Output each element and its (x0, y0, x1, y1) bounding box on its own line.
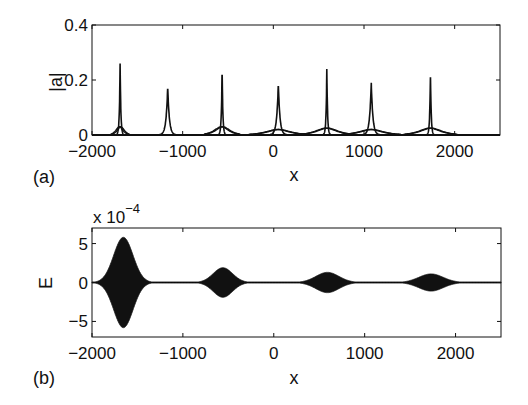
panel-b-multiplier: x 10−4 (93, 201, 140, 227)
x-tick-label: 1000 (346, 344, 384, 363)
panel-a-label: (a) (33, 167, 55, 187)
panel-b-label: (b) (33, 368, 55, 388)
panel-b-ylabel: E (36, 277, 56, 289)
base-hump-curve (405, 128, 457, 134)
y-tick-label: −5 (69, 312, 88, 331)
energy-envelope (92, 237, 501, 327)
panel-b-envelopes (92, 237, 501, 327)
panel-a-plot: −2000−100001000200000.20.4 |a| x (a) (33, 16, 500, 187)
multiplier-base: x 10 (93, 208, 125, 227)
peak-curve (92, 64, 500, 136)
x-tick-label: 1000 (345, 142, 383, 161)
y-tick-label: 0.2 (64, 71, 88, 90)
y-tick-label: 0 (79, 274, 88, 293)
panel-a-ylabel: |a| (46, 72, 66, 91)
x-tick-label: 0 (269, 344, 278, 363)
base-hump-curve (301, 128, 353, 134)
panel-a-peaks (92, 64, 500, 136)
panel-b-xlabel: x (290, 368, 299, 388)
x-tick-label: −1000 (159, 142, 207, 161)
x-tick-label: −2000 (68, 142, 116, 161)
x-tick-label: −1000 (159, 344, 207, 363)
panel-a-axes-frame (92, 25, 500, 135)
x-tick-label: 2000 (437, 344, 475, 363)
x-tick-label: 2000 (436, 142, 474, 161)
figure: −2000−100001000200000.20.4 |a| x (a) −20… (0, 0, 528, 405)
y-tick-label: 0.4 (64, 16, 88, 35)
panel-a-xlabel: x (290, 165, 299, 185)
y-tick-label: 5 (79, 235, 88, 254)
y-tick-label: 0 (79, 126, 88, 145)
panel-a-ticks: −2000−100001000200000.20.4 (64, 16, 500, 161)
x-tick-label: −2000 (68, 344, 116, 363)
multiplier-exponent: −4 (125, 201, 140, 216)
panel-b-plot: −2000−1000010002000−505 E x (b) x 10−4 (33, 201, 501, 388)
x-tick-label: 0 (269, 142, 278, 161)
base-hump-curve (205, 127, 240, 134)
